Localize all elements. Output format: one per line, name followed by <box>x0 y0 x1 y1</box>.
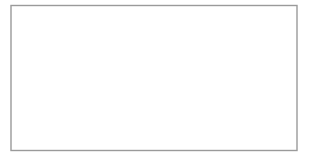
figure-root <box>0 0 309 162</box>
diagram-background <box>11 6 297 151</box>
wave-band-diagram <box>0 0 309 162</box>
